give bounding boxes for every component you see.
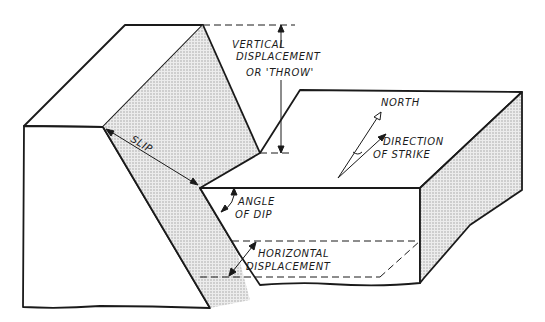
vertical-label-1: VERTICAL bbox=[232, 39, 285, 50]
horizontal-label-2: DISPLACEMENT bbox=[246, 261, 331, 272]
strike-label-2: OF STRIKE bbox=[373, 149, 431, 160]
dip-label-2: OF DIP bbox=[235, 209, 272, 220]
north-label: NORTH bbox=[381, 97, 420, 108]
downthrown-block bbox=[200, 90, 522, 285]
strike-label-1: DIRECTION bbox=[383, 136, 444, 147]
vertical-label-3: OR 'THROW' bbox=[246, 67, 314, 78]
vertical-label-2: DISPLACEMENT bbox=[236, 51, 321, 62]
fault-diagram: VERTICAL DISPLACEMENT OR 'THROW' NORTH D… bbox=[0, 0, 545, 322]
dip-label-1: ANGLE bbox=[237, 196, 275, 207]
horizontal-label-1: HORIZONTAL bbox=[258, 248, 329, 259]
